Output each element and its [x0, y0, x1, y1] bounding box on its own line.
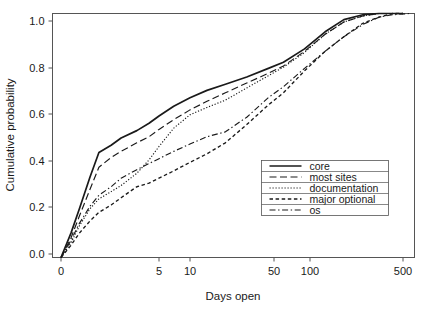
x-tick-label: 100 [301, 265, 319, 277]
ecdf-plot: 051050100500 0.00.20.40.60.81.0 Days ope… [0, 0, 430, 314]
chart-legend: coremost sitesdocumentationmajor optiona… [262, 160, 389, 216]
y-tick-label: 0.4 [29, 155, 44, 167]
plot-background [0, 0, 430, 314]
y-tick-label: 0.0 [29, 248, 44, 260]
x-tick-label: 10 [184, 265, 196, 277]
y-tick-label: 1.0 [29, 15, 44, 27]
x-tick-label: 0 [58, 265, 64, 277]
y-tick-label: 0.6 [29, 108, 44, 120]
x-tick-label: 5 [156, 265, 162, 277]
y-axis-title: Cumulative probability [4, 78, 16, 191]
chart-figure: 051050100500 0.00.20.40.60.81.0 Days ope… [0, 0, 430, 314]
y-tick-label: 0.8 [29, 62, 44, 74]
legend-label-os: os [310, 204, 321, 216]
x-tick-label: 500 [394, 265, 412, 277]
x-tick-label: 50 [268, 265, 280, 277]
x-axis-title: Days open [206, 290, 261, 302]
y-tick-label: 0.2 [29, 201, 44, 213]
